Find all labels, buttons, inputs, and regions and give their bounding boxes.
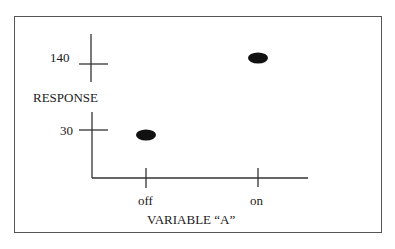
x-axis-title: VARIABLE “A” (147, 213, 235, 226)
y-axis-lower-segment (79, 112, 108, 178)
x-tick-label-off: off (138, 194, 153, 207)
y-tick-label-30: 30 (60, 124, 73, 137)
x-axis (92, 168, 308, 188)
data-point-on (248, 53, 268, 64)
x-tick-label-on: on (250, 194, 263, 207)
y-axis-title: RESPONSE (33, 91, 98, 104)
y-axis-upper-segment (79, 34, 108, 82)
y-tick-label-140: 140 (50, 51, 70, 64)
data-point-off (136, 130, 156, 141)
